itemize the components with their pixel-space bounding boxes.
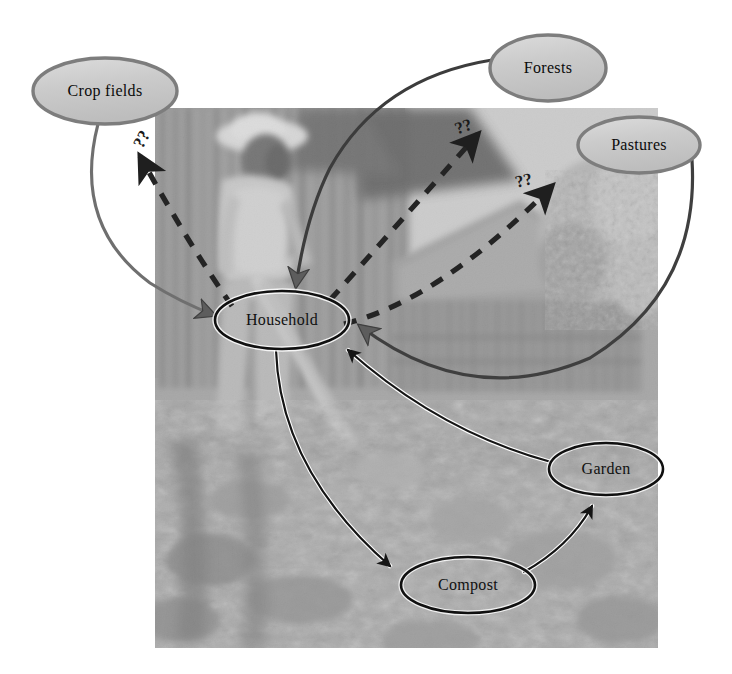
figure-canvas: ?? ?? ?? Crop fields Forests [0, 0, 732, 674]
flow-diagram: ?? ?? ?? Crop fields Forests [0, 0, 732, 674]
node-garden-label: Garden [582, 460, 631, 477]
node-pastures[interactable]: Pastures [578, 117, 700, 173]
node-crop-fields[interactable]: Crop fields [33, 58, 177, 124]
node-forests[interactable]: Forests [490, 35, 606, 101]
node-compost-label: Compost [438, 576, 498, 594]
node-household-label: Household [246, 311, 318, 328]
node-crop-fields-label: Crop fields [68, 82, 143, 100]
node-pastures-label: Pastures [611, 136, 667, 153]
node-forests-label: Forests [524, 59, 572, 76]
